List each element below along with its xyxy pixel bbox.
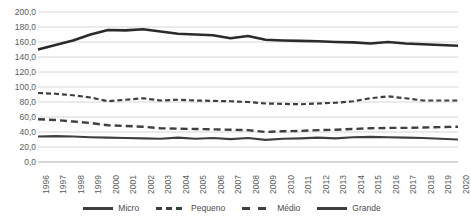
legend-item-grande[interactable]: Grande <box>317 204 380 213</box>
legend-label: Grande <box>352 204 380 213</box>
legend-swatch-icon <box>242 207 272 210</box>
legend-swatch-icon <box>317 207 347 210</box>
legend-label: Pequeno <box>191 204 225 213</box>
series-line-micro <box>38 136 458 140</box>
legend-swatch-icon <box>83 207 113 210</box>
legend-swatch-icon <box>156 207 186 210</box>
legend-label: Médio <box>277 204 300 213</box>
legend-item-mdio[interactable]: Médio <box>242 204 300 213</box>
legend-item-micro[interactable]: Micro <box>83 204 139 213</box>
legend-item-pequeno[interactable]: Pequeno <box>156 204 225 213</box>
chart-legend: MicroPequenoMédioGrande <box>0 198 464 218</box>
series-line-grande <box>38 29 458 49</box>
series-line-pequeno <box>38 93 458 104</box>
legend-label: Micro <box>118 204 139 213</box>
series-line-mdio <box>38 119 458 132</box>
